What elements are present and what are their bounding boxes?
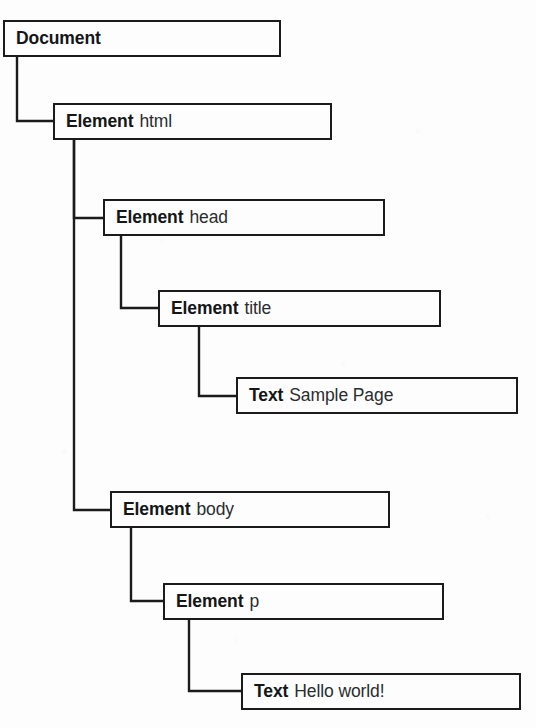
edge-html-to-head <box>74 140 103 218</box>
node-value-label: html <box>139 111 172 132</box>
node-head[interactable]: Elementhead <box>103 199 385 236</box>
node-type-label: Element <box>176 591 243 612</box>
edge-p-to-text <box>189 620 241 691</box>
node-type-label: Element <box>66 111 133 132</box>
node-title[interactable]: Elementtitle <box>158 290 441 327</box>
node-type-label: Element <box>171 298 238 319</box>
edge-document-to-html <box>17 57 53 121</box>
edge-body-to-p <box>131 528 163 601</box>
node-title-text[interactable]: TextSample Page <box>236 377 518 414</box>
node-html[interactable]: Elementhtml <box>53 103 332 140</box>
node-body[interactable]: Elementbody <box>110 491 390 528</box>
node-type-label: Element <box>123 499 190 520</box>
node-p-text[interactable]: TextHello world! <box>241 673 521 710</box>
node-document[interactable]: Document <box>3 20 281 57</box>
node-p[interactable]: Elementp <box>163 583 444 620</box>
edge-html-to-body <box>74 140 110 510</box>
node-value-label: p <box>249 591 259 612</box>
node-value-label: body <box>196 499 234 520</box>
edge-title-to-text <box>199 327 236 396</box>
node-type-label: Text <box>254 681 288 702</box>
node-value-label: head <box>189 207 228 228</box>
edge-head-to-title <box>121 236 158 308</box>
node-value-label: Sample Page <box>289 385 393 406</box>
node-value-label: title <box>244 298 271 319</box>
dom-tree-diagram: DocumentElementhtmlElementheadElementtit… <box>0 0 536 728</box>
node-type-label: Text <box>249 385 283 406</box>
node-type-label: Document <box>16 28 101 49</box>
node-type-label: Element <box>116 207 183 228</box>
node-value-label: Hello world! <box>294 681 384 702</box>
